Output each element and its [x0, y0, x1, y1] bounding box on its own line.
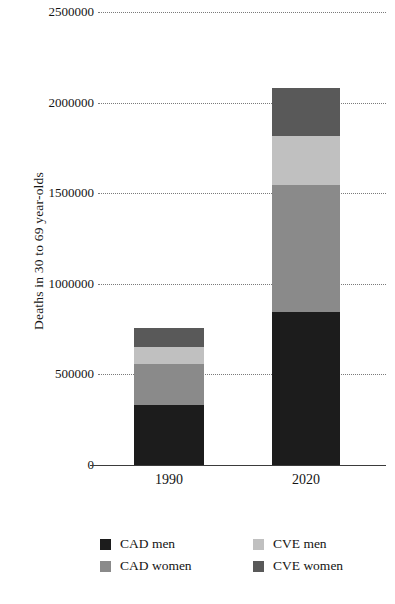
y-tick-label: 2000000: [22, 96, 94, 109]
bar-segment-cve-women: [134, 328, 204, 347]
bar-segment-cad-women: [134, 364, 204, 406]
legend-label: CAD women: [120, 559, 192, 573]
plot-area: [98, 6, 386, 466]
bar-1990: [134, 6, 204, 465]
legend-swatch-icon: [253, 561, 264, 572]
y-tick-label: 1500000: [22, 186, 94, 199]
bar-segment-cve-men: [272, 136, 340, 185]
y-axis-tick-labels: 05000001000000150000020000002500000: [22, 0, 94, 470]
legend-item-cad-men[interactable]: CAD men: [100, 535, 175, 553]
legend-label: CVE women: [273, 559, 343, 573]
x-axis-origin-stub: [90, 465, 99, 466]
stacked-bar-chart: Deaths in 30 to 69 year-olds 05000001000…: [0, 0, 395, 604]
bar-segment-cad-men: [134, 405, 204, 465]
bar-segment-cad-men: [272, 312, 340, 465]
legend-item-cad-women[interactable]: CAD women: [100, 557, 192, 575]
legend-swatch-icon: [100, 539, 111, 550]
x-tick-label: 1990: [134, 472, 204, 488]
legend-item-cve-women[interactable]: CVE women: [253, 557, 343, 575]
x-tick-label: 2020: [272, 472, 340, 488]
y-tick-label: 0: [22, 458, 94, 471]
y-tick-label: 1000000: [22, 277, 94, 290]
chart-legend: CAD menCAD womenCVE menCVE women: [0, 533, 395, 583]
bar-segment-cad-women: [272, 185, 340, 312]
bar-segment-cve-men: [134, 347, 204, 363]
y-tick-label: 500000: [22, 367, 94, 380]
legend-swatch-icon: [253, 539, 264, 550]
bar-2020: [272, 6, 340, 465]
legend-item-cve-men[interactable]: CVE men: [253, 535, 327, 553]
y-tick-label: 2500000: [22, 5, 94, 18]
legend-swatch-icon: [100, 561, 111, 572]
legend-label: CVE men: [273, 537, 327, 551]
legend-label: CAD men: [120, 537, 175, 551]
bar-segment-cve-women: [272, 88, 340, 136]
x-axis-line: [98, 465, 386, 466]
